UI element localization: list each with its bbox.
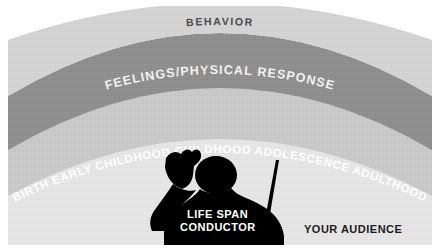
conductor-label-line2: CONDUCTOR <box>180 221 256 233</box>
conductor-label-line1: LIFE SPAN <box>187 208 248 220</box>
concentric-arc-svg: BEHAVIOR FEELINGS/PHYSICAL RESPONSE BIRT… <box>0 0 440 251</box>
band-label-behavior: BEHAVIOR <box>186 15 255 28</box>
life-span-conductor-diagram: BEHAVIOR FEELINGS/PHYSICAL RESPONSE BIRT… <box>0 0 440 251</box>
audience-label: YOUR AUDIENCE <box>304 223 402 235</box>
diagram-canvas: BEHAVIOR FEELINGS/PHYSICAL RESPONSE BIRT… <box>0 0 440 251</box>
